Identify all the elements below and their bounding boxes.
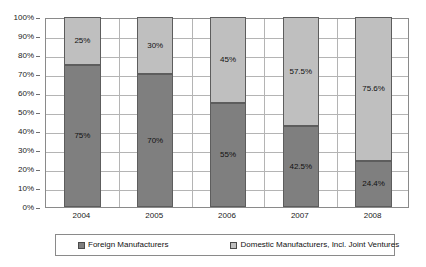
bar-group[interactable]: 70%30%	[137, 19, 173, 207]
y-tick-mark	[36, 94, 40, 95]
y-axis: 0%10%20%30%40%50%60%70%80%90%100%	[0, 18, 40, 208]
x-tick-label: 2006	[218, 211, 236, 220]
legend-swatch-icon	[230, 242, 237, 249]
legend-swatch-icon	[78, 242, 85, 249]
x-tick-label: 2008	[364, 211, 382, 220]
bar-group[interactable]: 75%25%	[64, 19, 100, 207]
y-tick-label: 70%	[18, 71, 34, 79]
y-tick-label: 20%	[18, 166, 34, 174]
bar-value-label: 30%	[147, 42, 163, 50]
y-tick-label: 0%	[22, 204, 34, 212]
y-tick-label: 30%	[18, 147, 34, 155]
bar-group[interactable]: 55%45%	[210, 19, 246, 207]
y-tick-label: 10%	[18, 185, 34, 193]
y-tick-label: 60%	[18, 90, 34, 98]
bar-segment[interactable]: 24.4%	[355, 161, 391, 207]
bar-value-label: 42.5%	[289, 163, 312, 171]
bar-segment[interactable]: 57.5%	[283, 17, 319, 126]
y-tick-mark	[36, 37, 40, 38]
bar-value-label: 75%	[74, 132, 90, 140]
y-tick-label: 50%	[18, 109, 34, 117]
bar-value-label: 75.6%	[362, 85, 385, 93]
y-tick-label: 100%	[14, 14, 34, 22]
y-tick-mark	[36, 208, 40, 209]
y-tick-label: 90%	[18, 33, 34, 41]
y-tick-mark	[36, 75, 40, 76]
y-tick-label: 80%	[18, 52, 34, 60]
bar-value-label: 57.5%	[289, 68, 312, 76]
x-tick-label: 2007	[291, 211, 309, 220]
bar-group[interactable]: 42.5%57.5%	[283, 19, 319, 207]
legend-label: Domestic Manufacturers, Incl. Joint Vent…	[240, 241, 399, 249]
bar-group[interactable]: 24.4%75.6%	[355, 19, 391, 207]
legend-item[interactable]: Domestic Manufacturers, Incl. Joint Vent…	[230, 241, 399, 249]
bar-value-label: 24.4%	[362, 180, 385, 188]
y-tick-mark	[36, 132, 40, 133]
legend-item[interactable]: Foreign Manufacturers	[78, 241, 168, 249]
x-axis: 20042005200620072008	[45, 211, 409, 227]
bar-segment[interactable]: 30%	[137, 17, 173, 74]
bar-segment[interactable]: 25%	[64, 17, 100, 65]
y-tick-mark	[36, 113, 40, 114]
bar-value-label: 25%	[74, 37, 90, 45]
bar-segment[interactable]: 55%	[210, 103, 246, 208]
y-tick-label: 40%	[18, 128, 34, 136]
x-tick-label: 2004	[72, 211, 90, 220]
bar-segment[interactable]: 70%	[137, 74, 173, 207]
bar-segment[interactable]: 42.5%	[283, 126, 319, 207]
y-tick-mark	[36, 56, 40, 57]
bars-layer: 75%25%70%30%55%45%42.5%57.5%24.4%75.6%	[46, 19, 408, 207]
y-tick-mark	[36, 151, 40, 152]
y-tick-mark	[36, 170, 40, 171]
chart-legend: Foreign ManufacturersDomestic Manufactur…	[55, 234, 395, 256]
bar-value-label: 70%	[147, 137, 163, 145]
y-tick-mark	[36, 189, 40, 190]
bar-segment[interactable]: 75%	[64, 65, 100, 208]
bar-value-label: 45%	[220, 56, 236, 64]
x-tick-label: 2005	[145, 211, 163, 220]
bar-segment[interactable]: 45%	[210, 17, 246, 103]
y-tick-mark	[36, 18, 40, 19]
plot-area: 75%25%70%30%55%45%42.5%57.5%24.4%75.6%	[45, 18, 409, 208]
bar-segment[interactable]: 75.6%	[355, 17, 391, 161]
legend-label: Foreign Manufacturers	[88, 241, 168, 249]
bar-value-label: 55%	[220, 151, 236, 159]
stacked-bar-chart: 0%10%20%30%40%50%60%70%80%90%100% 75%25%…	[0, 0, 426, 267]
